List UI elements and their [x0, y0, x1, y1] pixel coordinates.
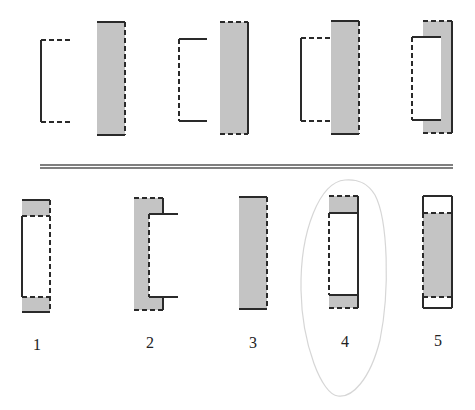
option-figure-3[interactable]	[239, 197, 267, 309]
question-figure-6	[412, 21, 452, 133]
separator-double-line	[40, 165, 453, 168]
option-label-1: 1	[33, 336, 41, 354]
puzzle-canvas: .solid { stroke: #2a2a2a; stroke-width: …	[0, 0, 475, 410]
option-label-5: 5	[434, 332, 442, 350]
question-figure-4	[220, 22, 248, 134]
option-figure-5[interactable]	[423, 196, 452, 308]
question-figure-2	[97, 22, 125, 135]
option-label-4: 4	[341, 333, 349, 351]
option-figure-1[interactable]	[22, 200, 50, 312]
question-figure-1	[41, 40, 71, 122]
question-figure-5	[301, 21, 359, 134]
option-figure-2[interactable]	[134, 198, 178, 310]
option-figure-4[interactable]	[329, 196, 358, 308]
option-label-2: 2	[146, 334, 154, 352]
option-label-3: 3	[249, 334, 257, 352]
question-figure-3	[179, 39, 207, 121]
